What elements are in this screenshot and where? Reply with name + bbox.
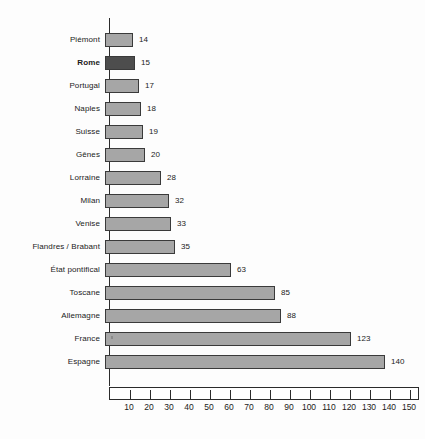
axis-tick [190, 390, 191, 399]
bar [105, 309, 281, 323]
axis-tick-label: 10 [124, 403, 133, 412]
axis-tick-label: 80 [264, 403, 273, 412]
category-label: Flandres / Brabant [0, 243, 105, 251]
bar-value-label: 15 [141, 59, 150, 67]
axis-tick-label: 40 [184, 403, 193, 412]
bar-track: 63 [105, 258, 425, 281]
bar-value-label: 140 [391, 358, 404, 366]
category-label: État pontifical [0, 266, 105, 274]
axis-tick-label: 30 [164, 403, 173, 412]
bar-row: Portugal17 [0, 74, 425, 97]
category-label: Lorraine [0, 174, 105, 182]
bar-value-label: 28 [167, 174, 176, 182]
axis-tick [270, 390, 271, 399]
axis-tick-label: 90 [284, 403, 293, 412]
axis-tick-label: 110 [322, 403, 336, 412]
bar [105, 332, 351, 346]
bar [105, 79, 139, 93]
category-label: Naples [0, 105, 105, 113]
category-label: Milan [0, 197, 105, 205]
axis-tick-label: 70 [244, 403, 253, 412]
category-label: Suisse [0, 128, 105, 136]
bar-row: Flandres / Brabant35 [0, 235, 425, 258]
bar-row: Suisse19 [0, 120, 425, 143]
bar [105, 240, 175, 254]
axis-tick-label: 100 [302, 403, 316, 412]
bar [105, 171, 161, 185]
bar-value-label: 88 [287, 312, 296, 320]
value-axis [109, 387, 419, 400]
category-label: France [0, 335, 105, 343]
bar-row: Venise33 [0, 212, 425, 235]
axis-tick [130, 390, 131, 399]
category-label: Allemagne [0, 312, 105, 320]
bar-value-label: 85 [281, 289, 290, 297]
bar-value-label: 19 [149, 128, 158, 136]
bar-track: 35 [105, 235, 425, 258]
category-label: Portugal [0, 82, 105, 90]
bar-value-label: 32 [175, 197, 184, 205]
bar-row: Naples18 [0, 97, 425, 120]
bar [105, 102, 141, 116]
bar [105, 217, 171, 231]
bar [105, 56, 135, 70]
bar-chart: Piémont14Rome15Portugal17Naples18Suisse1… [0, 0, 425, 439]
axis-tick [310, 390, 311, 399]
bar-row: Gênes20 [0, 143, 425, 166]
bar-row: Toscane85 [0, 281, 425, 304]
axis-tick [410, 390, 411, 399]
bar-value-label: 123 [357, 335, 370, 343]
category-label: Toscane [0, 289, 105, 297]
axis-tick-label: 60 [224, 403, 233, 412]
bar-value-label: 17 [145, 82, 154, 90]
bar-track: 140 [105, 350, 425, 373]
scan-artifact [111, 336, 113, 339]
bar-value-label: 20 [151, 151, 160, 159]
axis-tick-label: 20 [144, 403, 153, 412]
bar-row: Allemagne88 [0, 304, 425, 327]
bar-track: 32 [105, 189, 425, 212]
bar-track: 19 [105, 120, 425, 143]
bar-track: 20 [105, 143, 425, 166]
bar-value-label: 14 [139, 36, 148, 44]
axis-tick [170, 390, 171, 399]
bar-track: 88 [105, 304, 425, 327]
bar-row: France123 [0, 327, 425, 350]
axis-tick [230, 390, 231, 399]
axis-tick-label: 50 [204, 403, 213, 412]
bar-track: 33 [105, 212, 425, 235]
bar [105, 125, 143, 139]
bar-track: 85 [105, 281, 425, 304]
bar-rows: Piémont14Rome15Portugal17Naples18Suisse1… [0, 28, 425, 373]
axis-tick-label: 140 [382, 403, 396, 412]
axis-tick [210, 390, 211, 399]
axis-tick-label: 130 [362, 403, 376, 412]
category-label: Venise [0, 220, 105, 228]
bar [105, 148, 145, 162]
bar-row: Piémont14 [0, 28, 425, 51]
category-label: Rome [0, 59, 105, 67]
axis-tick [390, 390, 391, 399]
bar-row: État pontifical63 [0, 258, 425, 281]
bar-track: 28 [105, 166, 425, 189]
axis-tick [330, 390, 331, 399]
axis-tick [250, 390, 251, 399]
bar [105, 194, 169, 208]
bar-track: 18 [105, 97, 425, 120]
bar [105, 355, 385, 369]
bar-row: Espagne140 [0, 350, 425, 373]
bar-value-label: 33 [177, 220, 186, 228]
bar [105, 286, 275, 300]
bar-track: 15 [105, 51, 425, 74]
bar-value-label: 35 [181, 243, 190, 251]
category-label: Gênes [0, 151, 105, 159]
axis-tick [350, 390, 351, 399]
bar-track: 14 [105, 28, 425, 51]
bar-track: 123 [105, 327, 425, 350]
bar-value-label: 18 [147, 105, 156, 113]
axis-tick [370, 390, 371, 399]
bar-track: 17 [105, 74, 425, 97]
category-label: Espagne [0, 358, 105, 366]
category-label: Piémont [0, 36, 105, 44]
axis-tick-label: 120 [342, 403, 356, 412]
